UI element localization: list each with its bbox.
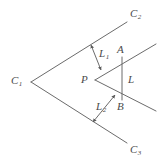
label-c1-subscript: 1 bbox=[19, 80, 23, 88]
label-c3-text: C bbox=[130, 143, 137, 155]
label-c1: C1 bbox=[11, 75, 22, 86]
label-l2-text: L bbox=[96, 100, 102, 112]
label-c2: C2 bbox=[130, 8, 141, 19]
label-l1-text: L bbox=[99, 47, 105, 59]
label-a: A bbox=[117, 44, 124, 55]
label-c3: C3 bbox=[130, 144, 141, 155]
label-b: B bbox=[117, 101, 124, 112]
label-l1: L1 bbox=[99, 48, 109, 59]
label-p: P bbox=[81, 74, 88, 85]
label-c2-subscript: 2 bbox=[138, 13, 142, 21]
ray-c1-to-c2 bbox=[31, 22, 127, 82]
ray-c1-to-c3 bbox=[31, 82, 127, 143]
cone-c1-rays bbox=[31, 22, 127, 143]
geometric-diagram: C1 C2 C3 P A B L L1 L2 bbox=[0, 0, 163, 163]
label-l: L bbox=[128, 74, 134, 85]
label-c3-subscript: 3 bbox=[138, 149, 142, 157]
label-c1-text: C bbox=[11, 74, 18, 86]
label-c2-text: C bbox=[130, 7, 137, 19]
label-l1-subscript: 1 bbox=[106, 53, 110, 61]
label-l2-subscript: 2 bbox=[103, 106, 107, 114]
label-l2: L2 bbox=[96, 101, 106, 112]
